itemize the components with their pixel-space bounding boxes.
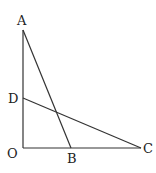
label-O: O <box>7 146 18 161</box>
label-C: C <box>143 141 153 156</box>
segment-AB <box>23 30 71 148</box>
geometry-diagram: A D O B C <box>0 0 156 173</box>
segment-DC <box>23 98 141 148</box>
label-B: B <box>67 151 77 166</box>
label-D: D <box>8 91 18 106</box>
label-A: A <box>16 13 27 28</box>
